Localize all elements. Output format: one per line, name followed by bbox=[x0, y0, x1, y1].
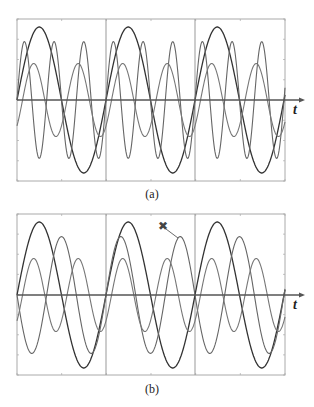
x-marker-icon: ✖ bbox=[158, 219, 168, 233]
panel-label-b: (b) bbox=[145, 382, 159, 397]
axis-arrow-icon bbox=[299, 98, 305, 103]
panel-label-a: (a) bbox=[145, 187, 158, 202]
t-axis-label-a: t bbox=[293, 102, 297, 118]
t-axis-label-b: t bbox=[293, 297, 297, 313]
axis-arrow-icon bbox=[299, 293, 305, 298]
figure: ✖ (a) t (b) t bbox=[0, 0, 314, 407]
waveform-plots: ✖ bbox=[0, 0, 314, 407]
